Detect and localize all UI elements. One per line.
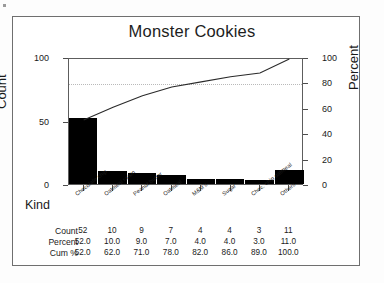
- y-axis-left: 050100: [54, 58, 68, 185]
- x-axis-title: Kind: [25, 198, 50, 212]
- y-tick-right-0: [303, 185, 308, 186]
- y-tick-right-1: [303, 160, 308, 161]
- y-tick-right-5: [303, 58, 308, 59]
- image-artifact-speck: [3, 4, 6, 7]
- page-title: Monster Cookies: [0, 22, 384, 41]
- y-tick-right-2: [303, 134, 308, 135]
- table-row: Cum %52.062.071.078.082.086.089.0100.0: [12, 248, 312, 259]
- y-tick-left-label-1: 50: [9, 117, 49, 127]
- table-cell-r1-c7: 11.0: [271, 237, 305, 246]
- table-row: Count52109744311: [12, 226, 312, 237]
- y-tick-left-label-0: 0: [9, 180, 49, 190]
- y-tick-right-3: [303, 109, 308, 110]
- y-tick-left-1: [63, 122, 68, 123]
- cumulative-line-series: [69, 59, 302, 184]
- y-tick-right-label-0: 0: [322, 180, 362, 190]
- data-table: Count52109744311Percent52.010.09.07.04.0…: [12, 226, 312, 259]
- chart-canvas: Monster Cookies 050100 Count 02040608010…: [0, 0, 384, 283]
- plot-inner: [69, 59, 302, 184]
- table-row: Percent52.010.09.07.04.04.03.011.0: [12, 237, 312, 248]
- y-tick-left-2: [63, 58, 68, 59]
- y-tick-right-4: [303, 83, 308, 84]
- y-tick-right-label-3: 60: [322, 104, 362, 114]
- table-cell-r2-c7: 100.0: [271, 248, 305, 257]
- plot-area: [68, 58, 303, 185]
- table-cell-r0-c7: 11: [271, 226, 305, 235]
- y-axis-right-title: Percent: [346, 45, 361, 90]
- y-tick-left-label-2: 100: [9, 53, 49, 63]
- y-tick-right-label-2: 40: [322, 129, 362, 139]
- y-axis-left-title: Count: [0, 74, 9, 109]
- y-tick-right-label-1: 20: [322, 155, 362, 165]
- y-axis-right: 020406080100: [303, 58, 317, 185]
- x-axis-category-labels: Chocolate chipOatmeal raisinPeanut butte…: [68, 192, 303, 226]
